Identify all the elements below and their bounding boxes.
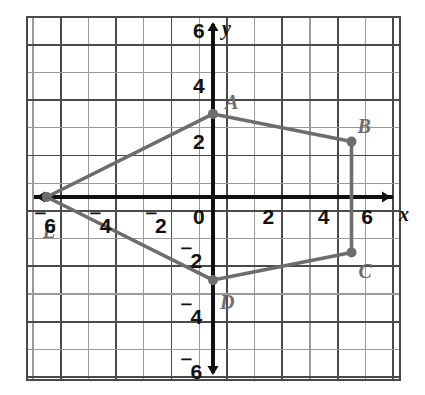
x-tick-label-0: 0 (193, 206, 204, 227)
point-label-c: C (359, 261, 372, 281)
y-tick-label-6: 6 (193, 20, 204, 41)
y-tick-label-neg6: ⁻6 (181, 352, 202, 382)
x-tick-label-neg4: ⁻4 (90, 206, 111, 236)
x-tick-label-4: 4 (318, 206, 329, 227)
x-tick-label-6: 6 (361, 206, 372, 227)
point-label-d: D (220, 292, 234, 312)
y-tick-label-neg4: ⁻4 (181, 297, 202, 327)
vertex-point-a (208, 109, 218, 119)
vertex-point-c (347, 247, 357, 257)
x-tick-label-neg6: ⁻6 (35, 206, 56, 236)
vertex-point-d (208, 275, 218, 285)
x-tick-label-neg2: ⁻2 (146, 206, 167, 236)
vertex-point-e (42, 192, 52, 202)
coordinate-plane-figure: ABCDE⁻6⁻4⁻20246642⁻2⁻4⁻6xy (0, 0, 425, 395)
y-tick-label-4: 4 (193, 75, 204, 96)
graph-svg (0, 0, 425, 395)
x-axis-arrow-right (382, 191, 391, 202)
y-axis-arrow-down (207, 366, 218, 375)
x-tick-label-2: 2 (262, 206, 273, 227)
y-tick-label-neg2: ⁻2 (181, 241, 202, 271)
y-axis-arrow-up (207, 22, 218, 31)
x-axis-label: x (399, 204, 409, 224)
y-axis-label: y (222, 18, 231, 38)
point-label-a: A (225, 92, 238, 112)
point-label-b: B (358, 116, 371, 136)
y-tick-label-2: 2 (193, 131, 204, 152)
vertex-point-b (347, 137, 357, 147)
